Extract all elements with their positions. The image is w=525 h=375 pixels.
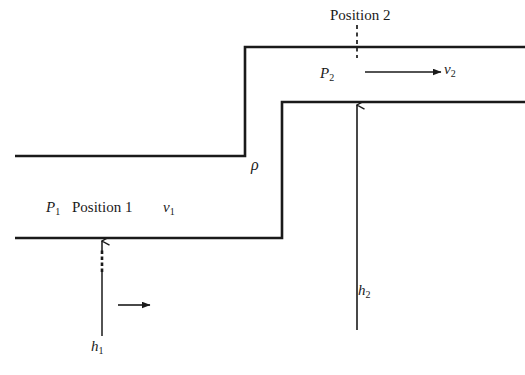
position-2-label: Position 2 (330, 8, 390, 23)
position-1-label: Position 1 (72, 200, 132, 215)
velocity-2-symbol: v (444, 61, 451, 77)
diagram-canvas (0, 0, 525, 375)
height-1-subscript: 1 (99, 345, 104, 356)
pressure-1-label: P1 (46, 200, 60, 217)
velocity-1-subscript: 1 (170, 206, 175, 217)
pressure-2-subscript: 2 (329, 72, 334, 83)
velocity-2-label: v2 (444, 62, 456, 79)
pressure-1-symbol: P (46, 199, 55, 215)
velocity-1-symbol: v (163, 199, 170, 215)
height-1-symbol: h (91, 338, 99, 354)
pressure-2-symbol: P (320, 65, 329, 81)
pressure-2-label: P2 (320, 66, 334, 83)
height-2-label: h2 (358, 283, 371, 300)
velocity-2-subscript: 2 (451, 68, 456, 79)
bernoulli-pipe-diagram: Position 2 P2 v2 ρ P1 Position 1 v1 h1 h… (0, 0, 525, 375)
height-2-symbol: h (358, 282, 366, 298)
density-label: ρ (251, 157, 259, 173)
velocity-1-label: v1 (163, 200, 175, 217)
height-2-subscript: 2 (366, 289, 371, 300)
pressure-1-subscript: 1 (55, 206, 60, 217)
height-1-label: h1 (91, 339, 104, 356)
pipe-lower-wall (15, 102, 525, 238)
